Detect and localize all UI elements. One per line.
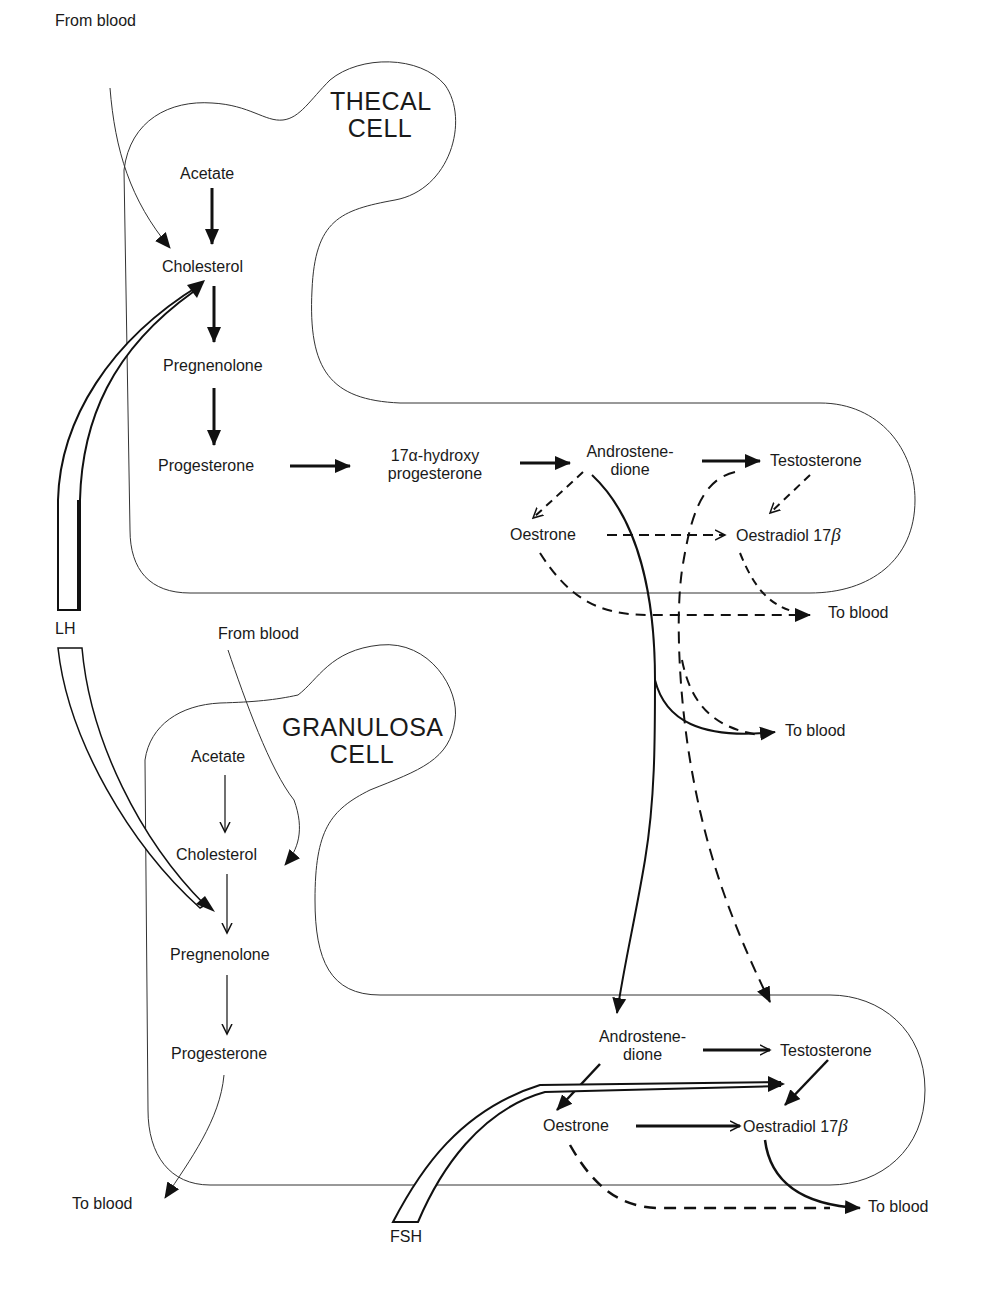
thecal-testosterone: Testosterone (770, 452, 862, 470)
granulosa-to-blood-right: To blood (868, 1198, 929, 1216)
granulosa-oestrone: Oestrone (543, 1117, 609, 1135)
thecal-cell-title: THECAL CELL (330, 88, 430, 142)
thecal-pregnenolone: Pregnenolone (163, 357, 263, 375)
middle-to-blood: To blood (785, 722, 846, 740)
granulosa-to-blood-left: To blood (72, 1195, 133, 1213)
thecal-cell-outline (124, 62, 915, 593)
androstenedione-line1: Androstene- (570, 443, 690, 461)
g-androstenedione-line1: Androstene- (580, 1028, 705, 1046)
thecal-17a-hydroxyprogesterone: 17α-hydroxy progesterone (370, 447, 500, 483)
fsh-label: FSH (390, 1228, 422, 1246)
thecal-androstenedione: Androstene- dione (570, 443, 690, 479)
beta-symbol: β (831, 524, 840, 545)
granulosa-title-line2: CELL (282, 741, 442, 768)
thecal-oestradiol: Oestradiol 17β (736, 526, 841, 545)
granulosa-testosterone: Testosterone (780, 1042, 872, 1060)
g-beta-symbol: β (838, 1115, 847, 1136)
hydroxy-line2: progesterone (370, 465, 500, 483)
granulosa-cholesterol: Cholesterol (176, 846, 257, 864)
thecal-title-line1: THECAL (330, 88, 430, 115)
thecal-title-line2: CELL (330, 115, 430, 142)
lh-lower-bar (58, 648, 205, 908)
oestradiol-text: Oestradiol 17 (736, 527, 831, 544)
g-androstenedione-line2: dione (580, 1046, 705, 1064)
granulosa-from-blood-label: From blood (218, 625, 299, 643)
g-oestradiol-text: Oestradiol 17 (743, 1118, 838, 1135)
androstenedione-line2: dione (570, 461, 690, 479)
fsh-bar (393, 1082, 780, 1222)
thecal-to-blood: To blood (828, 604, 889, 622)
granulosa-androstenedione: Androstene- dione (580, 1028, 705, 1064)
thecal-oestrone: Oestrone (510, 526, 576, 544)
thecal-from-blood-label: From blood (55, 12, 136, 30)
thecal-progesterone: Progesterone (158, 457, 254, 475)
thecal-acetate: Acetate (180, 165, 234, 183)
granulosa-progesterone: Progesterone (171, 1045, 267, 1063)
granulosa-acetate: Acetate (191, 748, 245, 766)
lh-label: LH (55, 620, 75, 638)
thecal-cholesterol: Cholesterol (162, 258, 243, 276)
hydroxy-line1: 17α-hydroxy (370, 447, 500, 465)
granulosa-pregnenolone: Pregnenolone (170, 946, 270, 964)
granulosa-oestradiol: Oestradiol 17β (743, 1117, 848, 1136)
granulosa-cell-title: GRANULOSA CELL (282, 714, 442, 768)
granulosa-title-line1: GRANULOSA (282, 714, 442, 741)
